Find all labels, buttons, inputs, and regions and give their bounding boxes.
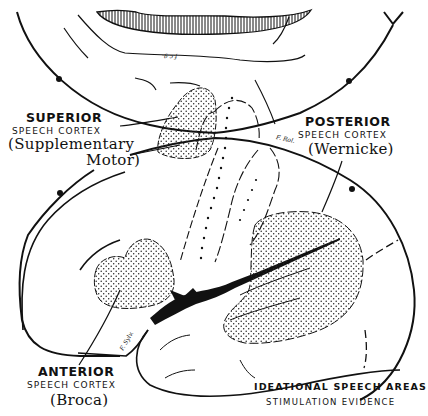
superior-note-1: (Supplementary — [8, 137, 134, 152]
occipital-boundary — [364, 240, 398, 368]
callosal-label: f.c.g. — [162, 54, 177, 60]
caption-subtitle: STIMULATION EVIDENCE — [266, 398, 395, 407]
anterior-note: (Broca) — [50, 393, 108, 408]
superior-note-2: Motor) — [86, 153, 140, 168]
anterior-subtitle: SPEECH CORTEX — [27, 381, 116, 390]
superior-title: SUPERIOR — [26, 112, 102, 125]
brain-illustration — [0, 0, 428, 416]
posterior-title: POSTERIOR — [305, 116, 391, 129]
speech-areas-diagram: SUPERIOR SPEECH CORTEX (Supplementary Mo… — [0, 0, 428, 416]
corpus-callosum-hatched — [97, 10, 311, 34]
anterior-speech-area-broca — [94, 239, 174, 308]
caption-title: IDEATIONAL SPEECH AREAS — [254, 382, 427, 392]
anterior-title: ANTERIOR — [38, 366, 115, 379]
posterior-note: (Wernicke) — [308, 142, 394, 157]
posterior-subtitle: SPEECH CORTEX — [298, 131, 387, 140]
